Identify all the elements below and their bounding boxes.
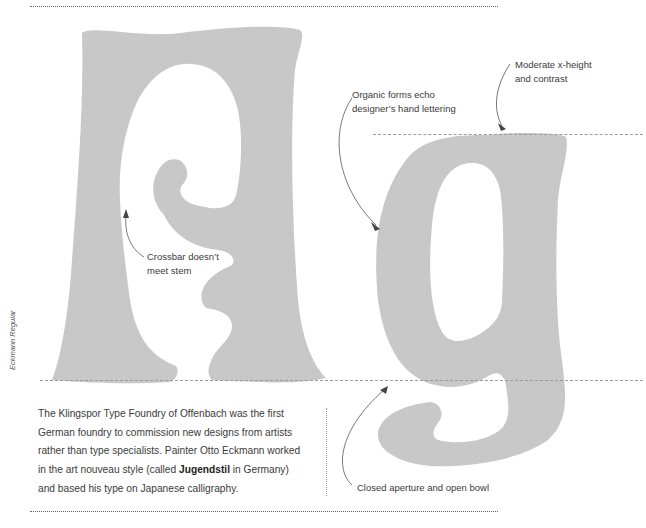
annotation-line: meet stem bbox=[147, 264, 219, 278]
arrowhead-crossbar bbox=[123, 209, 129, 218]
arrow-crossbar bbox=[126, 215, 144, 257]
arrow-organic-forms bbox=[339, 98, 376, 225]
annotation-line: Crossbar doesn’t bbox=[147, 250, 219, 264]
arrow-moderate-xheight bbox=[496, 64, 510, 126]
baseline-guide-line bbox=[40, 380, 643, 381]
annotation-line: Closed aperture and open bowl bbox=[357, 481, 489, 495]
xheight-guide-line bbox=[373, 134, 643, 135]
annotation-moderate-xheight: Moderate x-height and contrast bbox=[515, 58, 592, 86]
glyph-g bbox=[376, 133, 567, 466]
font-name-label: Eckmann Regular bbox=[8, 310, 17, 370]
caption-divider bbox=[326, 408, 327, 496]
caption-text: The Klingspor Type Foundry of Offenbach … bbox=[38, 405, 308, 499]
caption-emphasis: Jugendstil bbox=[179, 464, 230, 475]
glyph-A bbox=[52, 27, 326, 384]
arrowhead-moderate bbox=[498, 123, 506, 131]
annotation-closed-aperture: Closed aperture and open bowl bbox=[357, 481, 489, 495]
annotation-line: and contrast bbox=[515, 72, 592, 86]
annotation-organic-forms: Organic forms echo designer’s hand lette… bbox=[352, 88, 456, 116]
bottom-border-rule bbox=[30, 511, 498, 512]
annotation-crossbar: Crossbar doesn’t meet stem bbox=[147, 250, 219, 278]
annotation-line: designer’s hand lettering bbox=[352, 102, 456, 116]
arrow-closed-aperture bbox=[342, 390, 384, 485]
annotation-line: Organic forms echo bbox=[352, 88, 456, 102]
annotation-line: Moderate x-height bbox=[515, 58, 592, 72]
